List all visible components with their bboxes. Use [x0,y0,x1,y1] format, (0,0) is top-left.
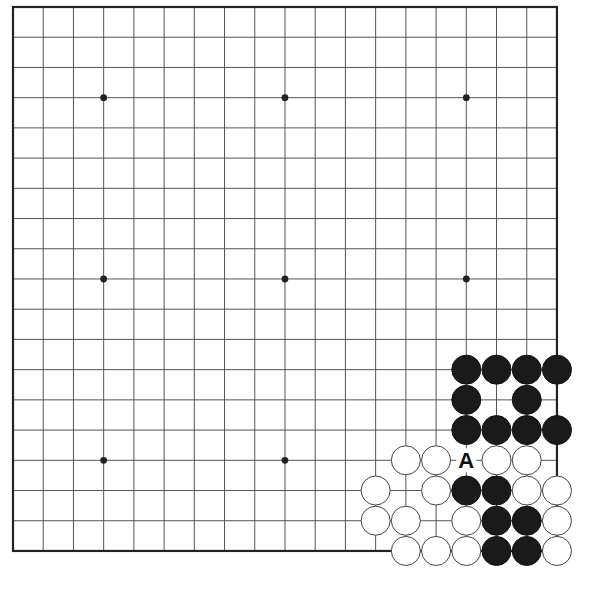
black-stone [452,355,481,384]
white-stone [361,476,390,505]
white-stone [422,446,451,475]
white-stone [452,506,481,535]
star-point [463,94,470,101]
star-point [100,276,107,283]
star-point [282,457,289,464]
black-stone [452,385,481,414]
star-point [282,94,289,101]
white-stone [482,446,511,475]
go-board-diagram: A [0,0,590,592]
black-stone [512,416,541,445]
black-stone [512,385,541,414]
white-stone [391,536,420,565]
black-stone [452,416,481,445]
point-label: A [458,448,474,473]
star-point [463,276,470,283]
white-stone [422,536,451,565]
black-stone [512,355,541,384]
black-stone [512,536,541,565]
white-stone [512,446,541,475]
white-stone [391,506,420,535]
white-stone [452,536,481,565]
black-stone [482,355,511,384]
white-stone [422,476,451,505]
star-point [282,276,289,283]
star-point [100,94,107,101]
white-stone [512,476,541,505]
star-point [100,457,107,464]
black-stone [482,536,511,565]
black-stone [452,476,481,505]
black-stone [512,506,541,535]
black-stone [542,355,571,384]
white-stone [542,536,571,565]
white-stone [542,506,571,535]
black-stone [482,416,511,445]
white-stone [361,506,390,535]
white-stone [391,446,420,475]
black-stone [482,506,511,535]
black-stone [542,416,571,445]
position-labels: A [456,448,476,473]
white-stone [542,476,571,505]
black-stone [482,476,511,505]
